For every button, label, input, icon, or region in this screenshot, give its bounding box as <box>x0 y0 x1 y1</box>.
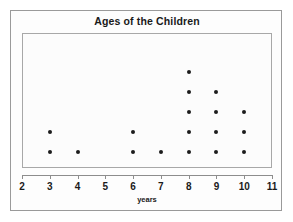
data-point-dot <box>187 90 191 94</box>
data-point-dot <box>214 130 218 134</box>
data-point-dot <box>242 110 246 114</box>
x-axis-tick <box>50 175 51 179</box>
data-point-dot <box>131 130 135 134</box>
x-axis-tick-label: 11 <box>260 181 284 192</box>
x-axis-tick-label: 6 <box>121 181 145 192</box>
data-point-dot <box>187 70 191 74</box>
data-point-dot <box>214 150 218 154</box>
x-axis-tick-label: 4 <box>66 181 90 192</box>
x-axis-tick-label: 9 <box>204 181 228 192</box>
chart-title: Ages of the Children <box>22 15 272 27</box>
x-axis-tick-label: 7 <box>149 181 173 192</box>
x-axis-tick-label: 5 <box>93 181 117 192</box>
x-axis-tick <box>189 175 190 179</box>
x-axis-tick-label: 3 <box>38 181 62 192</box>
data-point-dot <box>214 110 218 114</box>
data-point-dot <box>187 110 191 114</box>
data-dots-layer <box>22 33 272 168</box>
x-axis-label: years <box>22 195 272 204</box>
x-axis-tick <box>272 175 273 179</box>
x-axis-tick-label: 8 <box>177 181 201 192</box>
data-point-dot <box>48 130 52 134</box>
data-point-dot <box>242 150 246 154</box>
x-axis-tick <box>244 175 245 179</box>
x-axis-tick <box>78 175 79 179</box>
x-axis-tick <box>22 175 23 179</box>
x-axis-tick <box>133 175 134 179</box>
data-point-dot <box>187 150 191 154</box>
x-axis-tick <box>161 175 162 179</box>
data-point-dot <box>76 150 80 154</box>
x-axis-tick-label: 2 <box>10 181 34 192</box>
data-point-dot <box>48 150 52 154</box>
data-point-dot <box>214 90 218 94</box>
x-axis-line <box>22 175 272 176</box>
data-point-dot <box>187 130 191 134</box>
dot-plot-figure: Ages of the Children 234567891011 years <box>0 0 293 222</box>
x-axis-tick <box>105 175 106 179</box>
data-point-dot <box>159 150 163 154</box>
x-axis-tick-label: 10 <box>232 181 256 192</box>
data-point-dot <box>242 130 246 134</box>
x-axis-tick <box>216 175 217 179</box>
data-point-dot <box>131 150 135 154</box>
